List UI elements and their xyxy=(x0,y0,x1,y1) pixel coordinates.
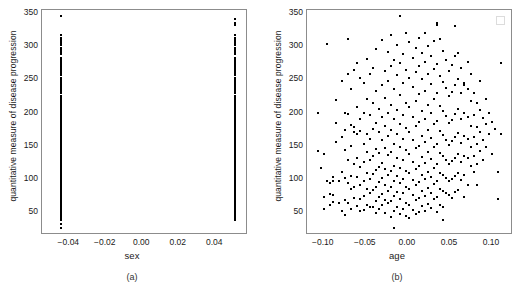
data-point xyxy=(60,43,62,45)
data-point xyxy=(323,153,325,155)
data-point xyxy=(60,110,62,112)
data-point xyxy=(399,62,401,64)
data-point xyxy=(491,153,493,155)
data-point xyxy=(381,139,383,141)
data-point xyxy=(442,190,444,192)
data-point xyxy=(445,192,447,194)
data-point xyxy=(457,108,459,110)
data-point xyxy=(234,117,236,119)
data-point xyxy=(347,73,349,75)
data-point xyxy=(485,123,487,125)
data-point xyxy=(378,166,380,168)
data-point xyxy=(375,212,377,214)
data-point xyxy=(393,143,395,145)
data-point xyxy=(60,37,62,39)
data-point xyxy=(234,79,236,81)
data-point xyxy=(488,133,490,135)
data-point xyxy=(430,55,432,57)
data-point xyxy=(500,62,502,64)
data-point xyxy=(412,57,414,59)
data-point xyxy=(384,97,386,99)
data-point xyxy=(372,189,374,191)
panel-b: quantitative measure of disease progress… xyxy=(265,0,529,293)
data-point xyxy=(390,129,392,131)
data-point xyxy=(393,227,395,229)
data-point xyxy=(448,144,450,146)
x-tick-label: −0.05 xyxy=(354,237,376,247)
data-point xyxy=(454,136,456,138)
data-point xyxy=(363,112,365,114)
data-point xyxy=(460,179,462,181)
data-point xyxy=(234,43,236,45)
data-point xyxy=(375,48,377,50)
data-point xyxy=(369,73,371,75)
data-point xyxy=(356,176,358,178)
data-point xyxy=(427,129,429,131)
data-point xyxy=(421,174,423,176)
data-point xyxy=(381,84,383,86)
data-point xyxy=(476,102,478,104)
data-point xyxy=(378,208,380,210)
data-point xyxy=(369,138,371,140)
data-point xyxy=(418,197,420,199)
data-point xyxy=(350,175,352,177)
data-point xyxy=(60,79,62,81)
data-point xyxy=(485,146,487,148)
data-point xyxy=(451,91,453,93)
data-point xyxy=(412,194,414,196)
data-point xyxy=(332,176,334,178)
data-point xyxy=(372,102,374,104)
data-point xyxy=(369,192,371,194)
data-point xyxy=(396,74,398,76)
data-point xyxy=(500,133,502,135)
data-point xyxy=(234,24,236,26)
data-point xyxy=(479,109,481,111)
y-tick-label: 250 xyxy=(289,73,303,83)
data-point xyxy=(442,219,444,221)
data-point xyxy=(439,152,441,154)
data-point xyxy=(399,182,401,184)
data-point xyxy=(454,55,456,57)
data-point xyxy=(393,165,395,167)
data-point xyxy=(418,165,420,167)
data-point xyxy=(353,163,355,165)
data-point xyxy=(234,110,236,112)
data-point xyxy=(338,180,340,182)
data-point xyxy=(387,51,389,53)
data-point xyxy=(344,177,346,179)
data-point xyxy=(381,162,383,164)
data-point xyxy=(323,208,325,210)
data-point xyxy=(427,203,429,205)
data-point xyxy=(396,133,398,135)
data-point xyxy=(454,175,456,177)
data-point xyxy=(497,171,499,173)
data-point xyxy=(430,207,432,209)
data-point xyxy=(396,44,398,46)
data-point xyxy=(402,114,404,116)
data-point xyxy=(476,163,478,165)
y-tick-label: 150 xyxy=(289,140,303,150)
data-point xyxy=(353,131,355,133)
data-point xyxy=(476,184,478,186)
data-point xyxy=(463,174,465,176)
data-point xyxy=(473,114,475,116)
data-point xyxy=(421,52,423,54)
data-point xyxy=(405,149,407,151)
data-point xyxy=(363,82,365,84)
data-point xyxy=(366,188,368,190)
data-point xyxy=(234,101,236,103)
data-point xyxy=(372,206,374,208)
data-point xyxy=(317,150,319,152)
y-tick-label: 350 xyxy=(24,7,38,17)
data-point xyxy=(482,139,484,141)
data-point xyxy=(418,211,420,213)
data-point xyxy=(359,130,361,132)
data-point xyxy=(359,198,361,200)
data-point xyxy=(421,78,423,80)
data-point xyxy=(402,178,404,180)
data-point xyxy=(359,166,361,168)
data-point xyxy=(430,192,432,194)
data-point xyxy=(387,80,389,82)
data-point xyxy=(60,69,62,71)
data-point xyxy=(402,192,404,194)
